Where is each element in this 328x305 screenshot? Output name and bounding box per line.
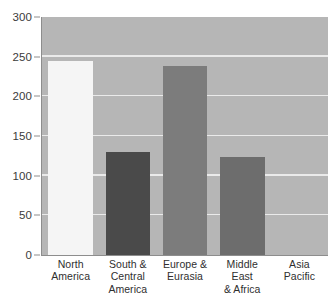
bar[interactable] <box>106 152 151 255</box>
y-tick-mark-50 <box>34 215 40 216</box>
y-tick-mark-300 <box>34 17 40 18</box>
y-tick-mark-200 <box>34 96 40 97</box>
y-tick-label-50: 50 <box>19 209 32 221</box>
y-tick-mark-100 <box>34 175 40 176</box>
x-axis-label: South &CentralAmerica <box>99 258 156 295</box>
x-axis-label-line: Asia <box>272 258 327 270</box>
x-axis-label: NorthAmerica <box>42 258 99 295</box>
y-tick-label-0: 0 <box>26 249 33 261</box>
x-axis-label-line: South & <box>100 258 155 270</box>
bar-chart: 300 250 200 150 100 50 0 NorthAmericaSou… <box>0 0 328 305</box>
x-axis-labels: NorthAmericaSouth &CentralAmericaEurope … <box>42 258 328 295</box>
y-tick-label-200: 200 <box>13 90 33 102</box>
y-tick-label-100: 100 <box>13 170 33 182</box>
y-tick-label-300: 300 <box>13 11 33 23</box>
bars-layer <box>42 17 328 255</box>
x-axis-label-line: & Africa <box>215 283 270 295</box>
bar-slot <box>271 17 328 255</box>
bar[interactable] <box>48 61 93 255</box>
y-tick-mark-0 <box>34 255 40 256</box>
bar[interactable] <box>163 66 208 255</box>
x-axis-label-line: Europe & <box>157 258 212 270</box>
x-axis-label-line: Middle East <box>215 258 270 283</box>
bar-slot <box>42 17 99 255</box>
x-axis-line <box>42 255 328 256</box>
x-axis-label-line: America <box>100 283 155 295</box>
y-tick-label-150: 150 <box>13 130 33 142</box>
bar-slot <box>99 17 156 255</box>
x-axis-label-line: America <box>43 270 98 282</box>
y-tick-label-250: 250 <box>13 51 33 63</box>
x-axis-label: Europe &Eurasia <box>156 258 213 295</box>
x-axis-label-line: Eurasia <box>157 270 212 282</box>
bar-slot <box>156 17 213 255</box>
x-axis-label: AsiaPacific <box>271 258 328 295</box>
plot-area <box>42 17 328 255</box>
bar[interactable] <box>220 157 265 255</box>
y-tick-mark-250 <box>34 56 40 57</box>
x-axis-label: Middle East& Africa <box>214 258 271 295</box>
y-axis: 300 250 200 150 100 50 0 <box>0 0 43 305</box>
x-axis-label-line: Central <box>100 270 155 282</box>
x-axis-label-line: North <box>43 258 98 270</box>
bar-slot <box>214 17 271 255</box>
y-tick-mark-150 <box>34 136 40 137</box>
x-axis-label-line: Pacific <box>272 270 327 282</box>
